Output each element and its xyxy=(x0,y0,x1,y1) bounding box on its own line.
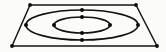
outer-contour-ellipse xyxy=(26,10,138,40)
corner-marker-top-left xyxy=(28,3,32,7)
outer-bottom-node xyxy=(80,38,84,42)
inner-right-node xyxy=(108,23,112,27)
corner-marker-bottom-left xyxy=(10,44,14,48)
corner-marker-top-right xyxy=(134,3,138,7)
inner-bottom-node xyxy=(80,31,84,35)
outer-top-node xyxy=(80,8,84,12)
corner-marker-bottom-right xyxy=(155,44,159,48)
outer-right-node xyxy=(136,23,140,27)
perspective-contour-diagram xyxy=(0,0,166,52)
outer-left-node xyxy=(24,23,28,27)
inner-contour-ellipse xyxy=(54,17,110,33)
inner-top-node xyxy=(80,15,84,19)
inner-left-node xyxy=(52,23,56,27)
figure-container xyxy=(0,0,166,52)
